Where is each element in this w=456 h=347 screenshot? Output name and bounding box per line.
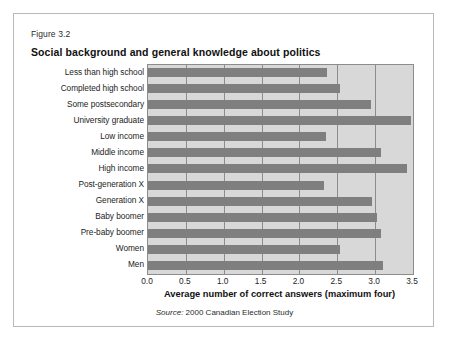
- bar: [148, 148, 381, 157]
- bar-row: [148, 210, 413, 226]
- category-label: Baby boomer: [16, 211, 144, 221]
- source-label: Source:: [156, 308, 184, 317]
- bar: [148, 116, 411, 125]
- category-label: Post-generation X: [16, 179, 144, 189]
- figure-frame: Figure 3.2 Social background and general…: [13, 13, 434, 327]
- bar: [148, 68, 327, 77]
- bar-series: [148, 65, 413, 274]
- x-tick-label: 3.5: [406, 276, 418, 286]
- x-tick-label: 3.0: [368, 276, 380, 286]
- bar: [148, 132, 326, 141]
- bar-row: [148, 161, 413, 177]
- x-tick-label: 1.0: [217, 276, 229, 286]
- bar: [148, 181, 324, 190]
- plot-area: [147, 64, 414, 275]
- category-label: High income: [16, 163, 144, 173]
- bar-row: [148, 258, 413, 274]
- category-label: Men: [16, 259, 144, 269]
- bar-row: [148, 178, 413, 194]
- bar-row: [148, 145, 413, 161]
- source-text: 2000 Canadian Election Study: [183, 308, 293, 317]
- bar: [148, 229, 381, 238]
- x-tick-label: 2.0: [293, 276, 305, 286]
- bar: [148, 261, 383, 270]
- bar-row: [148, 97, 413, 113]
- category-label: Completed high school: [16, 83, 144, 93]
- x-axis-title: Average number of correct answers (maxim…: [147, 289, 412, 299]
- category-label: Pre-baby boomer: [16, 227, 144, 237]
- x-tick-label: 0.0: [141, 276, 153, 286]
- category-label: Less than high school: [16, 67, 144, 77]
- category-label: Middle income: [16, 147, 144, 157]
- category-label: Low income: [16, 131, 144, 141]
- category-label: Generation X: [16, 195, 144, 205]
- y-axis-category-labels: Less than high schoolCompleted high scho…: [14, 64, 144, 273]
- bar-row: [148, 65, 413, 81]
- bar: [148, 197, 372, 206]
- bar: [148, 245, 340, 254]
- x-tick-label: 0.5: [179, 276, 191, 286]
- bar: [148, 213, 377, 222]
- bar-row: [148, 242, 413, 258]
- source-note: Source: 2000 Canadian Election Study: [14, 308, 435, 317]
- category-label: University graduate: [16, 115, 144, 125]
- bar-row: [148, 226, 413, 242]
- bar-row: [148, 81, 413, 97]
- bar-chart: Less than high schoolCompleted high scho…: [14, 14, 435, 328]
- category-label: Women: [16, 243, 144, 253]
- bar: [148, 100, 371, 109]
- x-tick-label: 2.5: [331, 276, 343, 286]
- bar: [148, 164, 407, 173]
- bar-row: [148, 129, 413, 145]
- x-axis-tick-labels: 0.00.51.01.52.02.53.03.5: [147, 276, 412, 288]
- bar: [148, 84, 340, 93]
- bar-row: [148, 113, 413, 129]
- bar-row: [148, 194, 413, 210]
- category-label: Some postsecondary: [16, 99, 144, 109]
- x-tick-label: 1.5: [255, 276, 267, 286]
